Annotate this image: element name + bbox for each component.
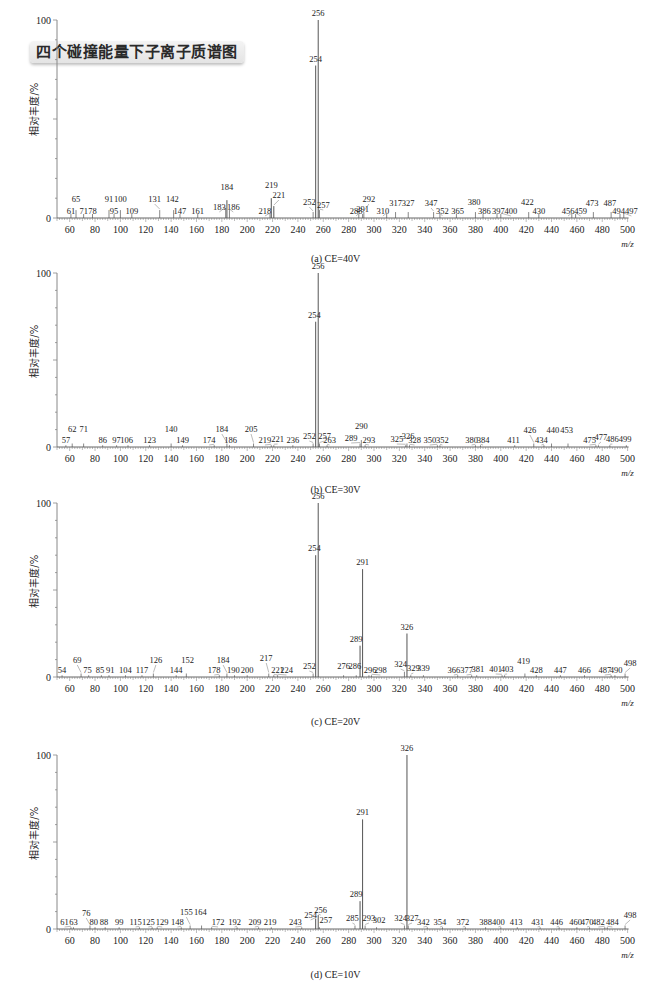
xtick-label: 240 bbox=[290, 453, 305, 464]
peak-label: 126 bbox=[150, 655, 163, 665]
peak-label: 352 bbox=[436, 206, 449, 216]
peak-label: 286 bbox=[349, 661, 362, 671]
peak-label: 256 bbox=[312, 8, 325, 18]
peak-label: 419 bbox=[517, 656, 530, 666]
xtick-label: 100 bbox=[113, 224, 128, 235]
xtick-label: 180 bbox=[214, 224, 229, 235]
xtick-label: 280 bbox=[341, 935, 356, 946]
xtick-label: 220 bbox=[265, 224, 280, 235]
peak-label: 293 bbox=[363, 435, 376, 445]
peak-label: 446 bbox=[550, 917, 563, 927]
spectrum-chart-d: 1000相对丰度/%608010012014016018020022024026… bbox=[0, 730, 671, 969]
xtick-label: 460 bbox=[569, 224, 584, 235]
peak-label: 236 bbox=[286, 435, 299, 445]
xtick-label: 320 bbox=[392, 935, 407, 946]
peak-label: 71 bbox=[79, 206, 88, 216]
peak-label: 317 bbox=[389, 198, 402, 208]
peak-label: 149 bbox=[176, 435, 189, 445]
ytick-0: 0 bbox=[46, 924, 51, 935]
ytick-0: 0 bbox=[46, 442, 51, 453]
peak-label: 147 bbox=[174, 206, 187, 216]
xtick-label: 340 bbox=[417, 935, 432, 946]
xtick-label: 260 bbox=[316, 453, 331, 464]
xtick-label: 260 bbox=[316, 683, 331, 694]
peak-label: 100 bbox=[114, 194, 127, 204]
peak-label: 254 bbox=[309, 54, 323, 64]
peak-label: 254 bbox=[308, 543, 322, 553]
xtick-label: 400 bbox=[493, 224, 508, 235]
y-axis-label: 相对丰度/% bbox=[28, 325, 40, 378]
peak-label: 129 bbox=[156, 917, 169, 927]
xtick-label: 260 bbox=[316, 935, 331, 946]
peak-label: 200 bbox=[241, 665, 254, 675]
peak-label: 184 bbox=[217, 655, 231, 665]
peak-label: 484 bbox=[606, 917, 620, 927]
peak-label: 498 bbox=[624, 658, 637, 668]
xtick-label: 460 bbox=[569, 683, 584, 694]
spectrum-chart-c: 1000相对丰度/%608010012014016018020022024026… bbox=[0, 480, 671, 717]
peak-label: 257 bbox=[317, 200, 330, 210]
peak-label: 131 bbox=[148, 194, 161, 204]
peak-label: 339 bbox=[417, 663, 430, 673]
peak-label: 350 bbox=[423, 435, 436, 445]
peak-label: 85 bbox=[96, 665, 105, 675]
peak-label: 186 bbox=[224, 435, 237, 445]
xtick-label: 300 bbox=[367, 224, 382, 235]
peak-label: 328 bbox=[408, 435, 421, 445]
xtick-label: 280 bbox=[341, 453, 356, 464]
peak-label: 217 bbox=[260, 653, 273, 663]
peak-label: 184 bbox=[215, 424, 229, 434]
peak-label: 109 bbox=[125, 206, 138, 216]
xtick-label: 500 bbox=[620, 683, 635, 694]
peak-label: 397 bbox=[492, 206, 505, 216]
peak-label: 298 bbox=[374, 665, 387, 675]
xtick-label: 420 bbox=[519, 683, 534, 694]
peak-label: 104 bbox=[119, 665, 133, 675]
peak-label: 499 bbox=[619, 434, 632, 444]
peak-label: 190 bbox=[227, 665, 240, 675]
x-axis-label: m/z bbox=[621, 468, 634, 478]
xtick-label: 240 bbox=[290, 935, 305, 946]
peak-label: 61 bbox=[60, 917, 69, 927]
peak-label: 221 bbox=[273, 190, 286, 200]
peak-label: 209 bbox=[248, 917, 261, 927]
peak-label: 291 bbox=[356, 557, 369, 567]
peak-label: 65 bbox=[72, 194, 81, 204]
xtick-label: 360 bbox=[443, 224, 458, 235]
peak-label: 447 bbox=[554, 665, 567, 675]
peak-label: 221 bbox=[271, 434, 284, 444]
peak-label: 456 bbox=[562, 206, 575, 216]
ytick-0: 0 bbox=[46, 213, 51, 224]
xtick-label: 160 bbox=[189, 935, 204, 946]
peak-label: 142 bbox=[166, 194, 179, 204]
peak-label: 183 bbox=[213, 202, 226, 212]
peak-label: 291 bbox=[356, 807, 369, 817]
xtick-label: 80 bbox=[90, 935, 100, 946]
xtick-label: 100 bbox=[113, 683, 128, 694]
xtick-label: 440 bbox=[544, 683, 559, 694]
peak-label: 172 bbox=[212, 917, 225, 927]
peak-label: 115 bbox=[129, 917, 141, 927]
peak-label: 430 bbox=[532, 206, 545, 216]
peak-label: 164 bbox=[194, 907, 208, 917]
xtick-label: 380 bbox=[468, 683, 483, 694]
xtick-label: 260 bbox=[316, 224, 331, 235]
peak-label: 161 bbox=[191, 206, 204, 216]
xtick-label: 80 bbox=[90, 683, 100, 694]
x-axis-label: m/z bbox=[621, 950, 634, 960]
peak-label: 99 bbox=[115, 917, 124, 927]
xtick-label: 140 bbox=[164, 935, 179, 946]
peak-label: 252 bbox=[303, 431, 316, 441]
peak-label: 256 bbox=[312, 491, 325, 501]
ytick-0: 0 bbox=[46, 672, 51, 683]
xtick-label: 160 bbox=[189, 683, 204, 694]
peak-label: 91 bbox=[105, 194, 114, 204]
xtick-label: 280 bbox=[341, 224, 356, 235]
peak-label: 140 bbox=[165, 424, 178, 434]
peak-label: 63 bbox=[69, 917, 78, 927]
xtick-label: 320 bbox=[392, 683, 407, 694]
xtick-label: 140 bbox=[164, 224, 179, 235]
peak-label: 219 bbox=[265, 180, 278, 190]
peak-label: 413 bbox=[510, 917, 523, 927]
xtick-label: 60 bbox=[65, 683, 75, 694]
